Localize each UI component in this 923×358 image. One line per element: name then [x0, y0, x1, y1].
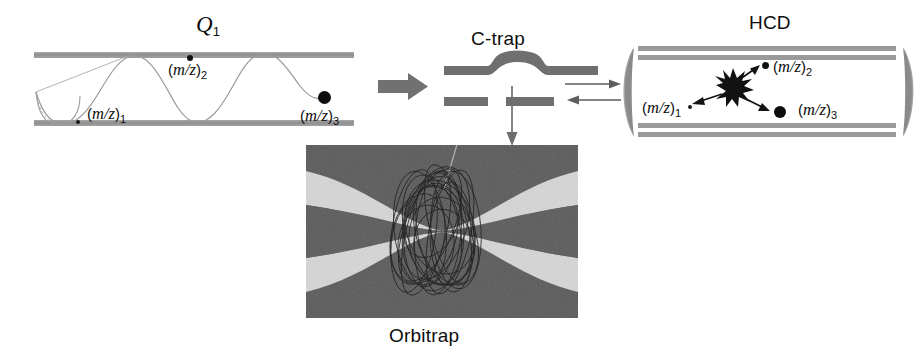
- hcd-label-mz2: (m/z)2: [773, 57, 812, 78]
- orbitrap-title: Orbitrap: [389, 325, 459, 347]
- ctrap-bottom-electrode-left: [444, 97, 488, 106]
- q1-label-mz2: (m/z)2: [168, 60, 207, 81]
- orbitrap-image: [306, 145, 578, 318]
- hcd-top-electrode-outer: [638, 46, 896, 51]
- q1-label-mz3: (m/z)3: [300, 106, 339, 127]
- q1-ion-dot-mz1: [76, 120, 80, 124]
- hcd-section: HCD: [610, 0, 923, 150]
- hcd-bottom-electrode-outer: [638, 132, 896, 137]
- hcd-exit-lens: [897, 47, 923, 137]
- mass-spectrometer-diagram: Q1 (m/z)1 (m/z)2 (m/z)3 C-trap: [0, 0, 923, 358]
- arrow-q1-to-ctrap: [378, 72, 430, 102]
- q1-label-mz1: (m/z)1: [87, 104, 126, 125]
- hcd-ion-dot-mz2: [762, 62, 769, 69]
- hcd-ion-dot-mz3: [774, 106, 786, 118]
- arrow-ctrap-to-orbitrap: [503, 86, 521, 148]
- hcd-ion-dot-mz1: [688, 105, 692, 109]
- hcd-entrance-lens: [614, 47, 640, 137]
- hcd-label-mz1: (m/z)1: [642, 98, 681, 119]
- q1-section: Q1 (m/z)1 (m/z)2 (m/z)3: [0, 0, 375, 150]
- ctrap-title: C-trap: [471, 28, 525, 50]
- hcd-title: HCD: [749, 12, 791, 34]
- hcd-label-mz3: (m/z)3: [798, 100, 837, 121]
- q1-ion-dot-mz3: [318, 91, 331, 104]
- orbitrap-section: Orbitrap: [306, 145, 596, 358]
